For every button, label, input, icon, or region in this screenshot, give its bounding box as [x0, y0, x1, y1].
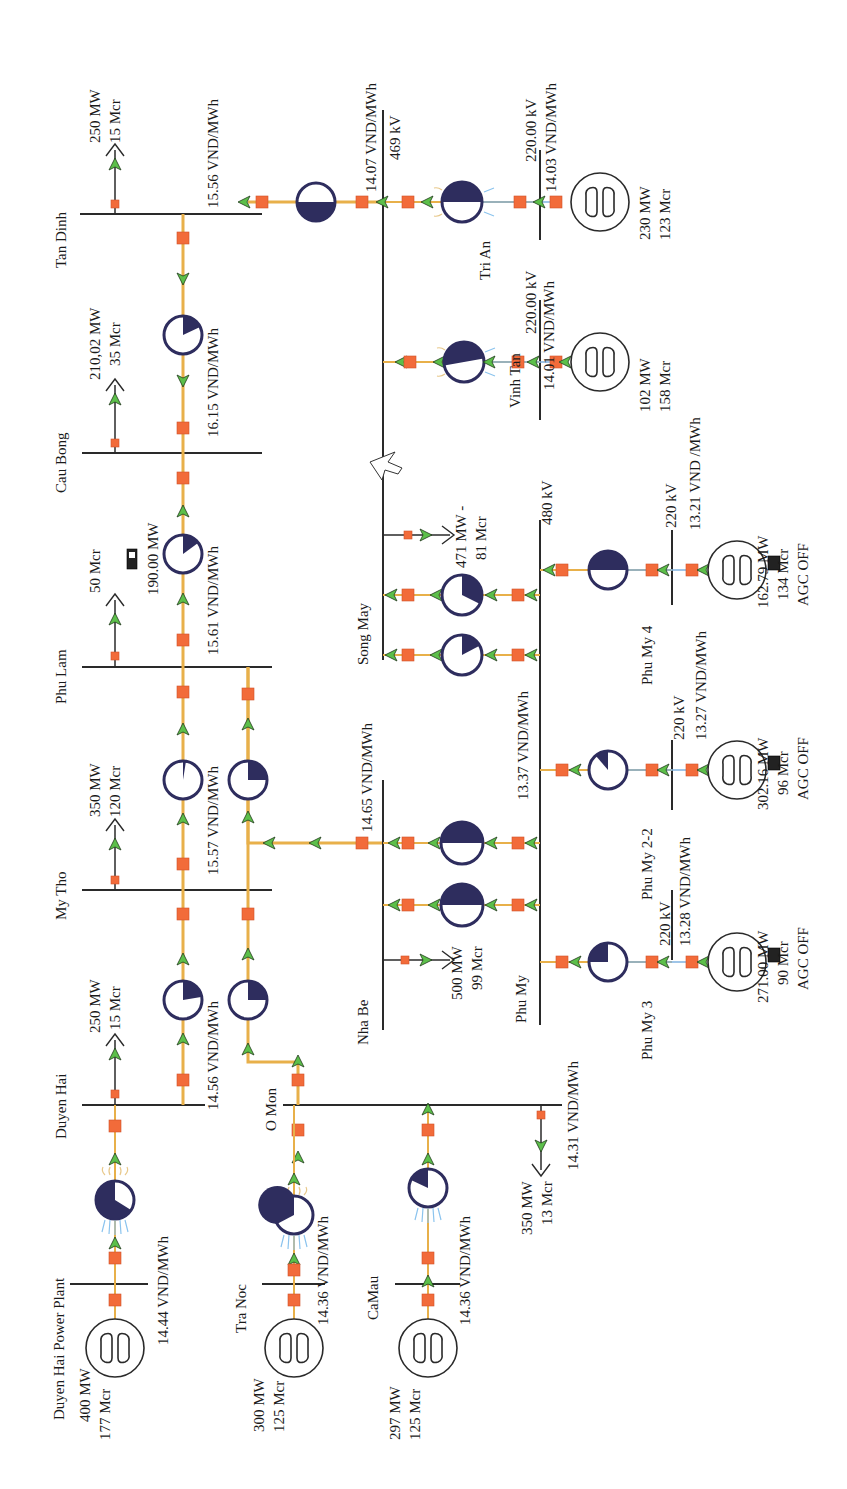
load-phu-lam[interactable] [106, 594, 124, 667]
bus-label-phu-my-4: Phu My 4 [639, 625, 655, 685]
price-phu-my-3: 13.28 VND/MWh [677, 837, 693, 946]
gen-mw-phu-my-2-2: 302.16 MW [755, 737, 771, 810]
price-tan-dinh: 15.56 VND/MWh [205, 99, 221, 208]
load-mw-o-mon: 350 MW [519, 1180, 535, 1235]
generator-tri-an[interactable] [571, 173, 629, 231]
gen-agc-phu-my-2-2: AGC OFF [795, 737, 811, 800]
bus-label-o-mon: O Mon [263, 1088, 279, 1131]
line-phu-my-3[interactable] [540, 943, 709, 981]
gen-mw-phu-my-3: 271.00 MW [755, 930, 771, 1003]
line-loading-pie[interactable] [164, 981, 202, 1019]
line-tra-noc-to-o-mon[interactable] [258, 1105, 313, 1320]
bus-label-vinh-tan: Vinh Tan [507, 353, 523, 408]
line-loading-pie[interactable] [297, 183, 335, 221]
voltage-vinh-tan: 220.00 kV [523, 271, 539, 335]
load-mvar-nha-be: 99 Mcr [469, 946, 485, 990]
generator-vinh-tan[interactable] [571, 333, 629, 391]
line-phu-my-4[interactable] [540, 551, 709, 589]
gen-mvar-camau: 125 Mcr [407, 1389, 423, 1440]
voltage-phu-my-4: 220 kV [663, 483, 679, 528]
load-my-tho[interactable] [106, 819, 124, 890]
load-mw-phu-lam: 190.00 MW [145, 522, 161, 595]
gen-mw-tri-an: 230 MW [637, 185, 653, 240]
generator-camau[interactable] [399, 1319, 457, 1377]
generator-tra-noc[interactable] [265, 1319, 323, 1377]
gen-mw-phu-my-4: 162.79 MW [755, 535, 771, 608]
price-tri-an: 14.03 VND/MWh [543, 83, 559, 192]
price-tra-noc: 14.36 VND/MWh [315, 1216, 331, 1325]
gen-mvar-phu-my-4: 134 Mcr [775, 549, 791, 600]
load-o-mon[interactable] [532, 1105, 550, 1176]
load-mw-cau-bong: 210,02 MW [87, 307, 103, 380]
bus-label-phu-my-2-2: Phu My 2-2 [639, 828, 655, 900]
voltage-tri-an: 220.00 kV [523, 99, 539, 163]
voltage-phu-my-2-2: 220 kV [671, 695, 687, 740]
agc-indicator-icon [127, 549, 137, 569]
gen-mw-duyen-hai-pp: 400 MW [77, 1367, 93, 1422]
one-line-diagram: Tan Dinh Cau Bong Phu Lam My Tho Duyen H… [0, 0, 847, 1489]
price-phu-my-4: 13.21 VND /MWh [687, 417, 703, 530]
load-tan-dinh[interactable] [106, 144, 124, 214]
line-camau-to-o-mon[interactable] [409, 1103, 447, 1320]
bus-label-song-may: Song May [355, 602, 371, 665]
gen-mw-camau: 297 MW [387, 1385, 403, 1440]
load-song-may[interactable] [383, 526, 454, 544]
load-mvar-my-tho: 120 Mcr [107, 766, 123, 817]
price-cau-bong: 16.15 VND/MWh [205, 328, 221, 437]
line-loading-pie[interactable] [164, 535, 202, 573]
load-duyen-hai[interactable] [106, 1034, 124, 1105]
load-mw-nha-be: 500 MW [449, 945, 465, 1000]
load-mvar-cau-bong: 35 Mcr [107, 322, 123, 366]
bus-label-cau-bong: Cau Bong [53, 432, 69, 493]
bus-label-duyen-hai: Duyen Hai [53, 1074, 69, 1139]
line-nha-be-to-phu-my-2[interactable] [383, 884, 540, 926]
price-camau: 14.36 VND/MWh [457, 1216, 473, 1325]
gen-mvar-tra-noc: 125 Mcr [271, 1381, 287, 1432]
gen-mvar-phu-my-2-2: 96 Mcr [775, 751, 791, 795]
price-nha-be: 14.65 VND/MWh [359, 723, 375, 832]
line-o-mon-to-phu-lam[interactable] [248, 667, 298, 1105]
line-loading-pie[interactable] [229, 761, 267, 799]
gen-mw-vinh-tan: 102 MW [637, 357, 653, 412]
bus-label-tra-noc: Tra Noc [233, 1284, 249, 1333]
line-song-may-to-phu-my-1[interactable] [383, 635, 540, 675]
line-phu-my-2-2[interactable] [540, 751, 709, 789]
bus-label-phu-my-3: Phu My 3 [639, 1001, 655, 1060]
price-phu-lam: 15.61 VND/MWh [205, 546, 221, 655]
price-duyen-hai-pp: 14.44 VND/MWh [155, 1236, 171, 1345]
bus-label-my-tho: My Tho [53, 872, 69, 920]
bus-label-duyen-hai-pp: Duyen Hai Power Plant [51, 1277, 67, 1420]
line-loading-pie[interactable] [164, 316, 202, 354]
line-loading-pie[interactable] [164, 761, 202, 799]
price-song-may: 14.07 VND/MWh [363, 83, 379, 192]
line-tri-an-to-song-may[interactable] [356, 182, 562, 222]
load-mw-my-tho: 350 MW [87, 762, 103, 817]
load-mvar-duyen-hai: 15 Mcr [107, 986, 123, 1030]
line-loading-pie[interactable] [229, 981, 267, 1019]
price-phu-my: 13.37 VND/MWh [515, 691, 531, 800]
gen-mvar-phu-my-3: 90 Mcr [775, 941, 791, 985]
voltage-song-may: 469 kV [387, 115, 403, 160]
load-mvar-song-may: 81 Mcr [473, 516, 489, 560]
gen-mvar-vinh-tan: 158 Mcr [657, 361, 673, 412]
load-nha-be[interactable] [383, 951, 454, 969]
voltage-phu-my-3: 220 kV [657, 901, 673, 946]
load-mvar-tan-dinh: 15 Mcr [107, 99, 123, 143]
price-vinh-tan: 14.01 VND/MWh [541, 281, 557, 390]
line-duyen-hai-pp-to-duyen-hai[interactable] [96, 1105, 134, 1320]
cursor-icon [370, 452, 402, 480]
load-mw-tan-dinh: 250 MW [87, 88, 103, 143]
line-nha-be-to-phu-my-1[interactable] [383, 822, 540, 864]
line-song-may-to-phu-my-2[interactable] [383, 575, 540, 615]
load-mvar-o-mon: 13 Mcr [539, 1181, 555, 1225]
load-cau-bong[interactable] [106, 379, 124, 453]
bus-label-phu-my: Phu My [513, 975, 529, 1023]
price-phu-my-2-2: 13.27 VND/MWh [693, 631, 709, 740]
gen-mvar-duyen-hai-pp: 177 Mcr [97, 1389, 113, 1440]
bus-label-nha-be: Nha Be [355, 999, 371, 1045]
gen-mw-tra-noc: 300 MW [251, 1377, 267, 1432]
load-mw-song-may: 471 MW - [453, 506, 469, 568]
bus-label-tan-dinh: Tan Dinh [53, 211, 69, 268]
load-mw-duyen-hai: 250 MW [87, 978, 103, 1033]
generator-duyen-hai-pp[interactable] [86, 1319, 144, 1377]
